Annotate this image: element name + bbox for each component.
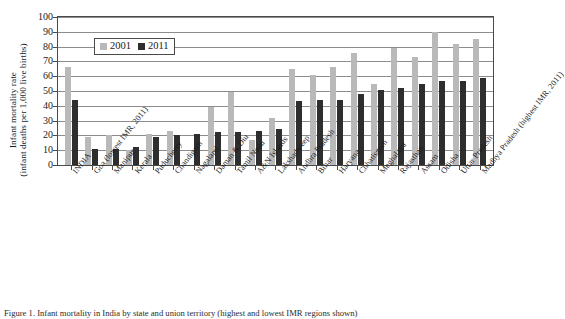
bar-2001 (453, 44, 459, 165)
y-tick-label-70: 70 (27, 56, 53, 66)
bar-group (408, 17, 428, 165)
legend-item-2011: 2011 (138, 40, 169, 52)
legend-label-2001: 2001 (110, 40, 131, 52)
bar-group (204, 17, 224, 165)
bar-2001 (65, 67, 71, 165)
bar-2011 (72, 100, 78, 165)
bar-2001 (330, 67, 336, 165)
legend-label-2011: 2011 (148, 40, 169, 52)
y-axis-title-line-1: Infant mortality rate (9, 35, 19, 185)
bar-2011 (460, 81, 466, 165)
y-tick-label-30: 30 (27, 116, 53, 126)
bar-group (449, 17, 469, 165)
x-axis-category-labels: INDIAGoa (lowest IMR, 2011)ManipurKerala… (58, 170, 493, 295)
legend-item-2001: 2001 (100, 40, 131, 52)
y-tick-label-40: 40 (27, 101, 53, 111)
legend: 2001 2011 (94, 38, 175, 55)
bar-group (347, 17, 367, 165)
bar-2011 (439, 81, 445, 165)
y-tick-label-0: 0 (27, 160, 53, 170)
y-tick-label-60: 60 (27, 71, 53, 81)
y-tick-label-50: 50 (27, 86, 53, 96)
bar-2001 (432, 32, 438, 165)
y-tick-label-10: 10 (27, 145, 53, 155)
y-tick-label-80: 80 (27, 42, 53, 52)
legend-swatch-2011-icon (138, 43, 145, 50)
legend-swatch-2001-icon (100, 43, 107, 50)
y-tick-label-90: 90 (27, 27, 53, 37)
bar-2011 (337, 100, 343, 165)
bar-group (326, 17, 346, 165)
y-tick-label-100: 100 (27, 12, 53, 22)
bar-group (429, 17, 449, 165)
y-tick-label-20: 20 (27, 130, 53, 140)
bar-group (61, 17, 81, 165)
figure-caption: Figure 1. Infant mortality in India by s… (4, 308, 498, 318)
